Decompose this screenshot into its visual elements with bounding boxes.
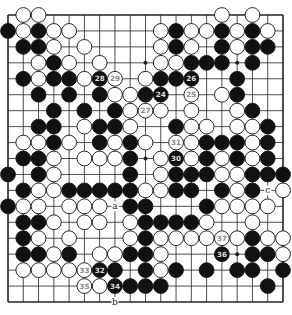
white-stone bbox=[16, 199, 31, 214]
move-number: 27 bbox=[140, 106, 150, 115]
white-stone: 37 bbox=[214, 231, 229, 246]
black-stone bbox=[62, 247, 77, 262]
black-stone bbox=[138, 199, 153, 214]
white-stone bbox=[92, 151, 107, 166]
white-stone: 27 bbox=[138, 103, 153, 118]
black-stone bbox=[138, 231, 153, 246]
white-stone bbox=[199, 231, 214, 246]
black-stone bbox=[245, 263, 260, 278]
white-stone bbox=[123, 231, 138, 246]
black-stone bbox=[199, 55, 214, 70]
star-point bbox=[144, 61, 148, 65]
move-number: 24 bbox=[156, 90, 166, 99]
white-stone bbox=[276, 231, 291, 246]
white-stone bbox=[16, 24, 31, 39]
white-stone bbox=[46, 24, 61, 39]
move-number: 33 bbox=[79, 266, 89, 275]
white-stone bbox=[153, 55, 168, 70]
white-stone bbox=[230, 24, 245, 39]
white-stone bbox=[260, 24, 275, 39]
black-stone bbox=[16, 39, 31, 54]
white-stone bbox=[153, 231, 168, 246]
white-stone bbox=[92, 215, 107, 230]
move-number: 36 bbox=[217, 250, 227, 259]
white-stone bbox=[62, 24, 77, 39]
black-stone bbox=[245, 247, 260, 262]
white-stone bbox=[153, 263, 168, 278]
black-stone bbox=[260, 247, 275, 262]
white-stone: 33 bbox=[77, 263, 92, 278]
black-stone bbox=[138, 87, 153, 102]
white-stone bbox=[184, 103, 199, 118]
white-stone bbox=[245, 119, 260, 134]
black-stone bbox=[123, 167, 138, 182]
black-stone bbox=[31, 215, 46, 230]
white-stone bbox=[245, 135, 260, 150]
black-stone bbox=[199, 151, 214, 166]
black-stone bbox=[169, 183, 184, 198]
white-stone bbox=[230, 167, 245, 182]
white-stone bbox=[214, 167, 229, 182]
white-stone bbox=[199, 215, 214, 230]
white-stone bbox=[276, 247, 291, 262]
white-stone bbox=[245, 215, 260, 230]
white-stone bbox=[138, 183, 153, 198]
white-stone bbox=[62, 55, 77, 70]
white-stone: 31 bbox=[169, 135, 184, 150]
white-stone: 29 bbox=[108, 71, 123, 86]
move-number: 30 bbox=[171, 154, 181, 163]
black-stone bbox=[260, 151, 275, 166]
white-stone bbox=[245, 199, 260, 214]
white-stone bbox=[153, 24, 168, 39]
black-stone bbox=[92, 183, 107, 198]
black-stone bbox=[169, 71, 184, 86]
black-stone bbox=[16, 183, 31, 198]
black-stone bbox=[169, 119, 184, 134]
white-stone bbox=[31, 135, 46, 150]
black-stone bbox=[46, 103, 61, 118]
black-stone bbox=[31, 87, 46, 102]
move-number: 37 bbox=[217, 234, 227, 243]
white-stone bbox=[123, 119, 138, 134]
white-stone bbox=[153, 103, 168, 118]
black-stone bbox=[1, 24, 16, 39]
black-stone bbox=[92, 135, 107, 150]
move-number: 34 bbox=[110, 282, 120, 291]
white-stone bbox=[62, 231, 77, 246]
white-stone bbox=[46, 263, 61, 278]
white-stone bbox=[199, 24, 214, 39]
white-stone bbox=[123, 103, 138, 118]
black-stone bbox=[16, 71, 31, 86]
white-stone bbox=[31, 199, 46, 214]
black-stone bbox=[260, 119, 275, 134]
black-stone bbox=[108, 103, 123, 118]
black-stone: 34 bbox=[108, 279, 123, 294]
black-stone bbox=[46, 119, 61, 134]
white-stone bbox=[245, 8, 260, 23]
white-stone bbox=[214, 8, 229, 23]
black-stone bbox=[16, 247, 31, 262]
star-point bbox=[235, 252, 239, 256]
white-stone bbox=[77, 151, 92, 166]
black-stone: 36 bbox=[214, 247, 229, 262]
white-stone: 25 bbox=[184, 87, 199, 102]
black-stone bbox=[77, 183, 92, 198]
black-stone bbox=[230, 135, 245, 150]
black-stone bbox=[245, 183, 260, 198]
star-point bbox=[144, 157, 148, 161]
white-stone bbox=[16, 263, 31, 278]
go-board: 2826292425273130373632333435 abc bbox=[0, 0, 292, 315]
black-stone bbox=[169, 39, 184, 54]
black-stone bbox=[16, 215, 31, 230]
black-stone bbox=[138, 263, 153, 278]
black-stone bbox=[92, 87, 107, 102]
black-stone bbox=[62, 87, 77, 102]
point-label-a: a bbox=[112, 201, 118, 211]
white-stone bbox=[230, 119, 245, 134]
black-stone bbox=[138, 247, 153, 262]
black-stone bbox=[46, 135, 61, 150]
white-stone bbox=[16, 135, 31, 150]
black-stone bbox=[214, 183, 229, 198]
white-stone bbox=[214, 199, 229, 214]
white-stone bbox=[108, 151, 123, 166]
